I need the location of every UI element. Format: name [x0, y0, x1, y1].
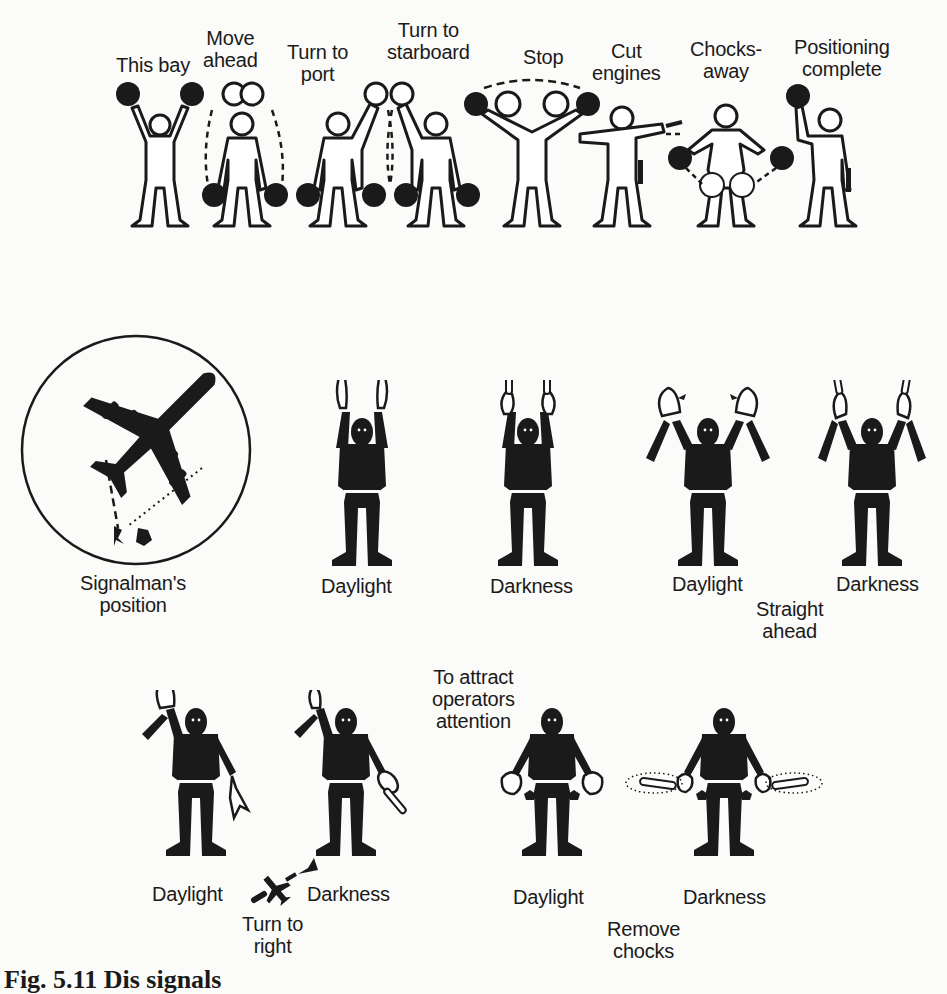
arrow-icon — [298, 858, 318, 874]
figure-positioning-complete — [786, 84, 856, 226]
figure-move-ahead — [202, 83, 288, 226]
figure-straight-ahead-daylight — [646, 388, 770, 566]
label-daylight-1: Daylight — [321, 575, 392, 597]
label-line: To attract — [432, 666, 515, 688]
label-straight-ahead: Straight ahead — [756, 598, 823, 642]
figure-remove-chocks-daylight — [502, 708, 603, 856]
row3-signal-figures — [0, 690, 947, 910]
figure-turn-right-daylight — [142, 690, 248, 856]
row2-signal-figures — [0, 380, 947, 610]
label-remove-chocks-darkness: Darkness — [683, 886, 766, 908]
label-turn-right-darkness: Darkness — [307, 883, 390, 905]
label-line: Remove — [607, 918, 680, 940]
label-turn-right-daylight: Daylight — [152, 883, 223, 905]
figure-this-bay — [116, 82, 204, 226]
figure-daylight-arms-up — [332, 380, 392, 566]
label-line: chocks — [607, 940, 680, 962]
label-remove-chocks-daylight: Daylight — [513, 886, 584, 908]
row1-signal-figures — [0, 0, 947, 240]
figure-chocks-away — [668, 105, 794, 226]
label-line: ahead — [756, 620, 823, 642]
label-line: Straight — [756, 598, 823, 620]
label-daylight-2: Daylight — [672, 573, 743, 595]
figure-stop — [464, 80, 600, 226]
figure-caption: Fig. 5.11 Dis signals — [4, 967, 221, 993]
figure-remove-chocks-darkness — [626, 708, 822, 856]
figure-cut-engines — [580, 107, 682, 226]
figure-turn-to-port — [296, 83, 393, 226]
label-darkness-1: Darkness — [490, 575, 573, 597]
figure-straight-ahead-darkness — [818, 380, 926, 566]
label-line: right — [242, 935, 303, 957]
label-darkness-2: Darkness — [836, 573, 919, 595]
label-line: Turn to — [242, 913, 303, 935]
label-turn-to-right: Turn to right — [242, 913, 303, 957]
figure-darkness-wands-up — [498, 380, 558, 566]
turning-aircraft-icon — [255, 869, 296, 910]
figure-turn-right-darkness — [294, 690, 407, 856]
label-remove-chocks: Remove chocks — [607, 918, 680, 962]
